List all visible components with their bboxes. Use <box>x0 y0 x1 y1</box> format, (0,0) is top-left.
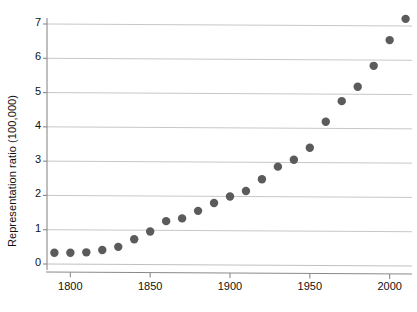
data-point <box>194 207 202 215</box>
scatter-plot <box>0 0 417 312</box>
x-tick-label: 2000 <box>370 280 410 292</box>
y-tick-label: 3 <box>23 153 41 165</box>
x-tick-label: 1950 <box>290 280 330 292</box>
x-tick-label: 1800 <box>50 280 90 292</box>
data-point <box>385 36 393 44</box>
gridlines <box>47 24 412 266</box>
data-point <box>258 175 266 183</box>
data-point <box>130 235 138 243</box>
data-point <box>162 217 170 225</box>
data-point <box>210 199 218 207</box>
data-point <box>98 246 106 254</box>
data-point <box>338 97 346 105</box>
axis-ticks <box>43 24 390 279</box>
y-tick-label: 2 <box>23 187 41 199</box>
data-point <box>242 187 250 195</box>
data-point <box>274 162 282 170</box>
data-point <box>354 83 362 91</box>
y-tick-label: 1 <box>23 222 41 234</box>
data-point <box>146 227 154 235</box>
y-tick-label: 5 <box>23 85 41 97</box>
data-point <box>82 248 90 256</box>
gridline <box>47 127 412 129</box>
data-point <box>401 15 409 23</box>
y-tick-label: 6 <box>23 50 41 62</box>
data-point <box>290 156 298 164</box>
data-point <box>226 192 234 200</box>
x-axis-line <box>46 272 412 274</box>
data-point <box>114 243 122 251</box>
axis-lines <box>46 18 412 274</box>
y-tick-label: 7 <box>23 16 41 28</box>
gridline <box>47 264 412 266</box>
data-point <box>50 248 58 256</box>
y-tick-label: 0 <box>23 256 41 268</box>
data-points <box>50 15 410 257</box>
data-point <box>322 118 330 126</box>
gridline <box>47 230 412 232</box>
gridline <box>47 24 412 26</box>
gridline <box>47 161 412 163</box>
gridline <box>47 93 412 95</box>
data-point <box>306 144 314 152</box>
chart-figure: Representation ratio (100,000) 01234567 … <box>0 0 417 312</box>
gridline <box>47 58 412 60</box>
x-tick-label: 1850 <box>130 280 170 292</box>
data-point <box>66 248 74 256</box>
data-point <box>369 62 377 70</box>
y-tick-label: 4 <box>23 119 41 131</box>
x-tick-label: 1900 <box>210 280 250 292</box>
data-point <box>178 214 186 222</box>
